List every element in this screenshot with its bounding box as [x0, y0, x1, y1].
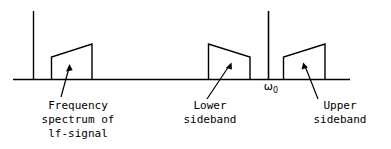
omega-symbol: ω [264, 80, 273, 93]
upper-sideband-trapezoid [284, 44, 326, 79]
omega-subscript: 0 [273, 86, 278, 95]
arrow-to-lf-spectrum [61, 64, 73, 97]
label-carrier-frequency: ω0 [252, 80, 290, 95]
arrow-to-upper-sideband [302, 63, 318, 100]
lf-spectrum-trapezoid [52, 44, 93, 79]
lower-sideband-trapezoid [209, 44, 251, 79]
label-lower-sideband: Lower sideband [152, 99, 268, 127]
label-upper-sideband: Upper sideband [290, 99, 390, 127]
label-lf-spectrum: Frequency spectrum of lf-signal [8, 99, 148, 141]
arrow-to-lower-sideband [207, 63, 232, 100]
